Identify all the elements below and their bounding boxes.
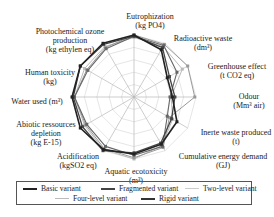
legend-swatch-two-level xyxy=(185,188,199,189)
legend: Basic variant Fragmented variant Two-lev… xyxy=(16,181,252,205)
data-point-marker xyxy=(102,148,105,151)
axis-label: Acidification(kgSO2 eq) xyxy=(57,152,99,170)
legend-swatch-fragmented xyxy=(101,188,115,190)
data-point-marker xyxy=(175,71,178,74)
axis-label: Greenhouse effect(t CO2 eq) xyxy=(208,62,266,80)
legend-label: Rigid variant xyxy=(159,194,199,203)
legend-label: Basic variant xyxy=(41,184,81,193)
data-point-marker xyxy=(175,120,178,123)
data-point-marker xyxy=(193,96,196,99)
legend-swatch-four-level xyxy=(55,198,69,199)
legend-swatch-rigid xyxy=(141,198,155,200)
data-point-marker xyxy=(79,127,82,130)
data-point-marker xyxy=(104,145,107,148)
axis-label: Eutrophization(kg PO4) xyxy=(126,12,174,30)
axis-label: Water used (m³) xyxy=(11,97,63,106)
legend-item-fragmented: Fragmented variant xyxy=(101,184,178,193)
data-point-marker xyxy=(133,153,136,156)
legend-label: Four-level variant xyxy=(73,194,127,203)
legend-item-four-level: Four-level variant xyxy=(55,194,127,203)
data-point-marker xyxy=(166,76,169,79)
data-point-marker xyxy=(166,115,169,118)
legend-label: Two-level variant xyxy=(203,184,257,193)
data-point-marker xyxy=(186,65,189,68)
data-point-marker xyxy=(171,96,174,99)
data-point-marker xyxy=(170,117,173,120)
data-point-marker xyxy=(71,96,74,99)
data-point-marker xyxy=(181,68,184,71)
data-point-marker xyxy=(79,65,82,68)
axis-label: Radioactive waste(dm³) xyxy=(174,34,232,52)
legend-item-two-level: Two-level variant xyxy=(185,184,257,193)
data-point-marker xyxy=(160,48,163,51)
axis-label: Odour(Mm³ air) xyxy=(233,92,265,110)
axis-label: Cumulative energy demand(GJ) xyxy=(179,152,267,170)
legend-swatch-basic xyxy=(23,188,37,190)
data-point-marker xyxy=(86,69,89,72)
legend-item-rigid: Rigid variant xyxy=(141,194,199,203)
axis-label: Human toxicity(kg) xyxy=(25,68,75,86)
data-point-marker xyxy=(85,123,88,126)
data-point-marker xyxy=(160,143,163,146)
legend-item-basic: Basic variant xyxy=(23,184,81,193)
axis-label: Abiotic ressourcesdepletion(kg E-15) xyxy=(16,120,75,147)
axis-label: Photochemical ozoneproduction(kg ethylen… xyxy=(36,27,105,54)
data-point-marker xyxy=(105,47,108,50)
data-point-marker xyxy=(133,34,136,37)
axis-label: Inerte waste produced(t) xyxy=(201,128,272,146)
legend-label: Fragmented variant xyxy=(119,184,178,193)
